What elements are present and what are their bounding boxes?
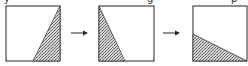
arrow-2-icon (163, 31, 180, 36)
panel-1 (6, 6, 60, 61)
panel-3 (193, 6, 247, 61)
arrow-1-icon (71, 31, 88, 36)
diagram: y g p (0, 0, 248, 66)
panel-2 (99, 6, 154, 61)
diagram-svg (0, 0, 248, 66)
